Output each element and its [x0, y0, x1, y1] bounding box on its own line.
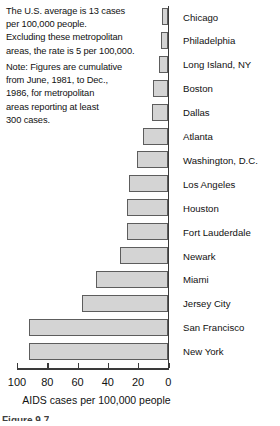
bar: [137, 151, 169, 168]
bar-row: Newark: [0, 247, 280, 264]
bar: [120, 247, 168, 264]
x-axis-line: [17, 368, 169, 370]
aids-cases-bar-chart-figure: The U.S. average is 13 cases per 100,000…: [0, 0, 280, 426]
x-axis-tick-label: 100: [8, 376, 26, 388]
x-axis-tick-label: 60: [71, 376, 83, 388]
bar-row: Los Angeles: [0, 175, 280, 192]
y-axis-line: [168, 6, 170, 369]
bar-category-label: Miami: [183, 274, 209, 285]
bar-row: Houston: [0, 199, 280, 216]
bar-category-label: Philadelphia: [183, 35, 235, 46]
x-axis-tick: [17, 363, 18, 368]
bar: [29, 319, 168, 336]
bar-row: Washington, D.C.: [0, 151, 280, 168]
plot-area: ChicagoPhiladelphiaLong Island, NYBoston…: [0, 0, 280, 426]
bar-category-label: New York: [183, 346, 224, 357]
bar: [127, 199, 168, 216]
x-axis-tick-label: 0: [165, 376, 171, 388]
bar-row: Chicago: [0, 8, 280, 25]
bar: [129, 175, 168, 192]
bar-category-label: Long Island, NY: [183, 59, 251, 70]
x-axis-tick-label: 40: [102, 376, 114, 388]
bar-category-label: Boston: [183, 83, 213, 94]
bar-row: New York: [0, 343, 280, 360]
bar-row: Miami: [0, 271, 280, 288]
bar-category-label: Chicago: [183, 11, 218, 22]
bar-row: Philadelphia: [0, 32, 280, 49]
bar-category-label: Houston: [183, 202, 219, 213]
x-axis-label: AIDS cases per 100,000 people: [0, 394, 193, 406]
x-axis-tick: [168, 363, 169, 368]
bar-category-label: Newark: [183, 250, 216, 261]
bar: [127, 223, 168, 240]
bar-category-label: San Francisco: [183, 322, 244, 333]
x-axis-tick-label: 20: [132, 376, 144, 388]
bar: [96, 271, 169, 288]
bar-row: Fort Lauderdale: [0, 223, 280, 240]
x-axis-tick: [138, 363, 139, 368]
bar-category-label: Dallas: [183, 107, 210, 118]
bar-row: Long Island, NY: [0, 56, 280, 73]
bar: [143, 128, 169, 145]
bar-category-label: Jersey City: [183, 298, 230, 309]
bar: [82, 295, 168, 312]
bar-category-label: Washington, D.C.: [183, 154, 258, 165]
bar-category-label: Fort Lauderdale: [183, 226, 251, 237]
bar-category-label: Los Angeles: [183, 178, 235, 189]
bar-row: San Francisco: [0, 319, 280, 336]
bar-row: Dallas: [0, 104, 280, 121]
bar-row: Atlanta: [0, 128, 280, 145]
x-axis-tick-label: 80: [41, 376, 53, 388]
bar: [152, 104, 169, 121]
x-axis-tick: [78, 363, 79, 368]
bar-row: Jersey City: [0, 295, 280, 312]
x-axis-tick: [47, 363, 48, 368]
bar: [29, 343, 168, 360]
bar-row: Boston: [0, 80, 280, 97]
bar: [153, 80, 168, 97]
x-axis-tick: [108, 363, 109, 368]
bar-category-label: Atlanta: [183, 131, 213, 142]
